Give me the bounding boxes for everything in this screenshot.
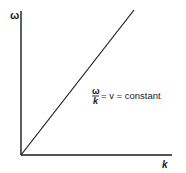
annotation-text: = v = constant <box>101 90 161 101</box>
x-axis-label: k <box>162 159 168 170</box>
annotation-numerator: ω <box>92 86 100 96</box>
y-axis-label: ω <box>10 9 19 21</box>
linear-relation-line <box>21 10 134 155</box>
annotation-denominator: k <box>93 96 99 106</box>
dispersion-diagram: ω k ω k = v = constant <box>0 0 186 173</box>
